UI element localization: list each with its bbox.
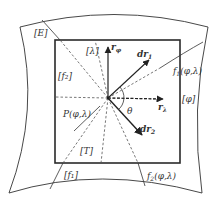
f-line-bottom-left xyxy=(50,163,63,189)
label-region-f1: [f₁] xyxy=(64,171,78,180)
point-p xyxy=(107,97,110,100)
dr1-vector xyxy=(108,60,149,98)
label-dr1: dr1 xyxy=(137,50,152,60)
label-point-p: P(φ,λ) xyxy=(63,110,91,119)
r-lambda-vector xyxy=(108,98,163,99)
outer-boundary xyxy=(9,15,208,194)
label-f1-curve: f1(φ,λ) xyxy=(173,67,202,77)
dr2-vector xyxy=(108,98,142,135)
label-r-lambda: rλ xyxy=(158,103,167,113)
label-theta: θ xyxy=(127,107,132,116)
label-region-t: [T] xyxy=(80,147,93,156)
label-dr2: dr2 xyxy=(140,125,155,135)
label-region-phi: [φ] xyxy=(182,95,195,104)
label-f2-curve: f2(φ,λ) xyxy=(147,172,176,182)
f2-line-bottom xyxy=(138,163,145,186)
label-r-phi: rφ xyxy=(111,43,121,53)
label-region-lambda: [λ] xyxy=(86,47,99,56)
f1-curve xyxy=(160,42,203,68)
label-region-e: [E] xyxy=(34,29,48,38)
label-region-f2: [f₂] xyxy=(58,72,72,81)
